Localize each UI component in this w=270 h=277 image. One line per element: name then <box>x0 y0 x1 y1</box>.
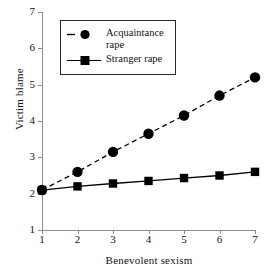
chart-figure: Victim blame Benevolent sexism 7 6 5 4 3… <box>0 0 270 277</box>
legend-key-square-solid <box>66 53 102 68</box>
y-tick-label-4: 4 <box>30 113 36 128</box>
legend-label-line2: rape <box>106 39 124 50</box>
legend-label-stranger-rape: Stranger rape <box>102 53 162 65</box>
data-point <box>144 177 152 185</box>
data-point <box>72 167 82 177</box>
x-tick-label-2: 2 <box>68 233 88 245</box>
legend-item-stranger-rape: Stranger rape <box>61 52 175 69</box>
x-axis-title: Benevolent sexism <box>42 254 256 266</box>
y-tick-label-7: 7 <box>30 4 36 19</box>
y-tick-label-5: 5 <box>30 77 36 92</box>
data-point <box>38 186 46 194</box>
x-tick-label-4: 4 <box>139 233 159 245</box>
x-tick-label-7: 7 <box>245 233 265 245</box>
x-tick-label-5: 5 <box>174 233 194 245</box>
data-point <box>179 110 189 120</box>
y-tick-label-3: 3 <box>30 149 36 164</box>
y-axis-title: Victim blame <box>13 39 25 159</box>
x-tick-label-3: 3 <box>103 233 123 245</box>
x-tick-label-1: 1 <box>32 233 52 245</box>
data-point <box>214 90 224 100</box>
data-point <box>108 147 118 157</box>
legend-item-acquaintance-rape: Acquaintance rape <box>61 26 175 52</box>
data-point <box>215 171 223 179</box>
chart-legend: Acquaintance rape Stranger rape <box>60 20 176 75</box>
data-point <box>73 182 81 190</box>
y-tick-label-6: 6 <box>30 40 36 55</box>
data-point <box>250 72 260 82</box>
x-tick-label-6: 6 <box>210 233 230 245</box>
series-markers-stranger-rape <box>38 168 259 195</box>
data-point <box>251 168 259 176</box>
data-point <box>143 129 153 139</box>
legend-label-line1: Acquaintance <box>106 27 164 38</box>
legend-key-circle-dashed <box>66 27 102 42</box>
legend-label-acquaintance-rape: Acquaintance rape <box>102 27 164 51</box>
plot-area: 7 6 5 4 3 2 1 1 2 3 4 5 6 7 <box>42 12 255 230</box>
data-point <box>180 174 188 182</box>
data-point <box>109 179 117 187</box>
y-tick-label-2: 2 <box>30 186 36 201</box>
